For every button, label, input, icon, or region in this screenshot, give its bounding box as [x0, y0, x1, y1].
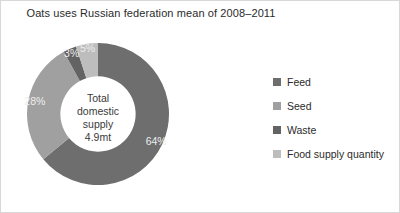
slice-data-label: 28% [24, 95, 45, 107]
legend-item-label: Feed [287, 77, 311, 88]
legend-item[interactable]: Seed [273, 94, 397, 118]
legend-swatch-icon [273, 102, 281, 110]
chart-title: Oats uses Russian federation mean of 200… [1, 7, 301, 19]
center-annotation-line2: domestic [77, 105, 119, 117]
slice-data-label: 5% [80, 42, 95, 54]
center-annotation-line1: Total [87, 92, 109, 104]
donut-svg: Total domestic supply 4.9mt 64%28%3%5% [26, 42, 170, 186]
legend-swatch-icon [273, 126, 281, 134]
legend-item-label: Waste [287, 125, 316, 136]
donut-chart: Total domestic supply 4.9mt 64%28%3%5% [26, 42, 170, 186]
legend-item[interactable]: Waste [273, 118, 397, 142]
slice-data-label: 64% [146, 135, 167, 147]
legend-item[interactable]: Food supply quantity [273, 142, 397, 166]
legend-item[interactable]: Feed [273, 70, 397, 94]
legend-swatch-icon [273, 78, 281, 86]
center-annotation-line3: supply [83, 118, 114, 130]
chart-figure: Oats uses Russian federation mean of 200… [0, 0, 400, 213]
chart-legend: FeedSeedWasteFood supply quantity [273, 70, 397, 166]
legend-item-label: Food supply quantity [287, 149, 384, 160]
legend-item-label: Seed [287, 101, 312, 112]
center-annotation-line4: 4.9mt [85, 131, 111, 143]
legend-swatch-icon [273, 150, 281, 158]
slice-data-label: 3% [64, 47, 79, 59]
